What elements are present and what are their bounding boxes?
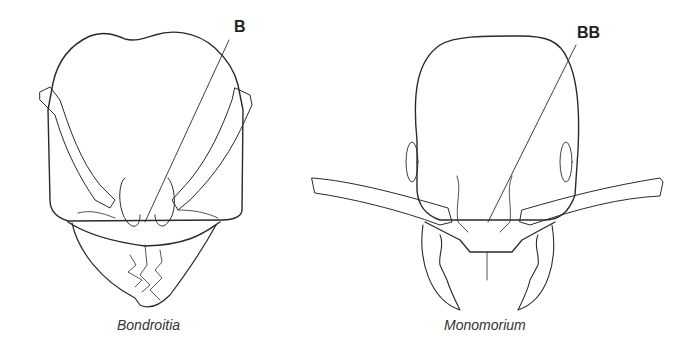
bondroitia-head-drawing [40, 32, 252, 307]
illustration-canvas [0, 0, 694, 360]
label-b: B [234, 18, 246, 36]
label-bb: BB [577, 24, 600, 42]
caption-monomorium: Monomorium [444, 317, 526, 333]
monomorium-head-drawing [312, 36, 663, 310]
caption-bondroitia: Bondroitia [117, 317, 180, 333]
